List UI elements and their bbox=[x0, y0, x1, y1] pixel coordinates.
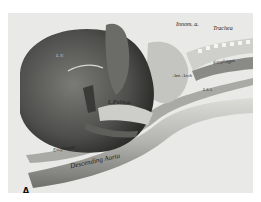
label-anterior-arch: Ant. Arch bbox=[173, 73, 192, 78]
anatomical-illustration: Innom. a. Trachea Esophagus L.V. Ant. Ar… bbox=[8, 13, 253, 193]
label-trachea: Trachea bbox=[213, 25, 233, 31]
label-left-ventricle: L.V. bbox=[56, 53, 64, 58]
label-left-subclavian: L.S.A. bbox=[203, 88, 213, 92]
label-posterior-arch: Post. Arch bbox=[100, 117, 117, 121]
panel-label: A bbox=[22, 185, 30, 193]
label-innominate-artery: Innom. a. bbox=[176, 21, 199, 27]
label-left-pulmonary-artery: L.Pulm.a. bbox=[108, 99, 132, 105]
